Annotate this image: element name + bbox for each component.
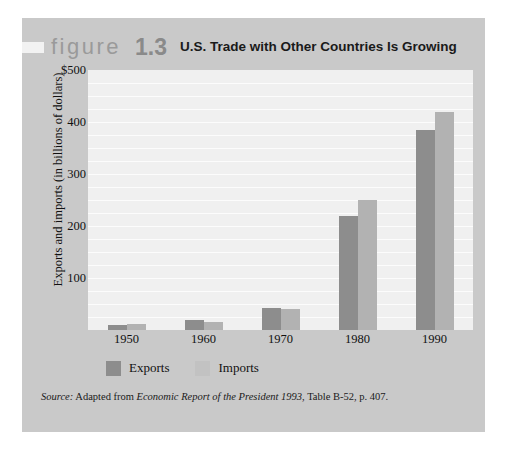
bar-group: [339, 70, 377, 330]
bar-imports-1990: [435, 112, 454, 330]
x-axis-tick-label: 1990: [405, 332, 465, 347]
bar-exports-1990: [416, 130, 435, 330]
source-work-title: Economic Report of the President 1993: [137, 391, 303, 402]
bar-group: [416, 70, 454, 330]
bar-group: [108, 70, 146, 330]
source-note: Source: Adapted from Economic Report of …: [41, 390, 471, 404]
x-axis-tick-label: 1980: [328, 332, 388, 347]
legend-swatch-imports: [195, 361, 210, 376]
bar-exports-1960: [185, 320, 204, 330]
figure-title: U.S. Trade with Other Countries Is Growi…: [180, 40, 457, 54]
bar-group: [262, 70, 300, 330]
y-axis-tick-label: $500: [42, 63, 86, 78]
bar-group: [185, 70, 223, 330]
source-prefix: Adapted from: [73, 391, 136, 402]
source-label: Source:: [41, 391, 73, 402]
bar-exports-1980: [339, 216, 358, 330]
x-axis-ticks: 19501960197019801990: [88, 332, 473, 347]
legend-swatch-exports: [106, 361, 121, 376]
bar-imports-1970: [281, 309, 300, 330]
bar-imports-1980: [358, 200, 377, 330]
legend-label-imports: Imports: [218, 360, 258, 376]
figure-panel: figure 1.3 U.S. Trade with Other Countri…: [22, 18, 485, 432]
figure-header: figure 1.3 U.S. Trade with Other Countri…: [22, 30, 485, 64]
plot-area: [88, 70, 473, 330]
figure-number-label: 1.3: [135, 36, 167, 59]
y-axis-tick-label: 300: [42, 167, 86, 182]
legend-item-exports: Exports: [106, 360, 169, 376]
chart-area: Exports and imports (in billions of doll…: [22, 70, 485, 370]
y-axis-tick-label: 200: [42, 219, 86, 234]
x-axis-tick-label: 1950: [97, 332, 157, 347]
y-axis-tick-label: 400: [42, 115, 86, 130]
legend-item-imports: Imports: [195, 360, 258, 376]
bar-exports-1950: [108, 325, 127, 330]
bar-imports-1950: [127, 324, 146, 330]
x-axis-tick-label: 1960: [174, 332, 234, 347]
y-axis-tick-label: 100: [42, 271, 86, 286]
bar-exports-1970: [262, 308, 281, 330]
bar-imports-1960: [204, 322, 223, 330]
chart-legend: ExportsImports: [106, 360, 259, 376]
x-axis-tick-label: 1970: [251, 332, 311, 347]
legend-label-exports: Exports: [129, 360, 169, 376]
bars-layer: [88, 70, 473, 330]
figure-word-label: figure: [51, 36, 121, 58]
source-suffix: , Table B-52, p. 407.: [302, 391, 388, 402]
y-axis-ticks: $500400300200100: [42, 70, 86, 330]
figure-accent-bar: [22, 42, 44, 53]
